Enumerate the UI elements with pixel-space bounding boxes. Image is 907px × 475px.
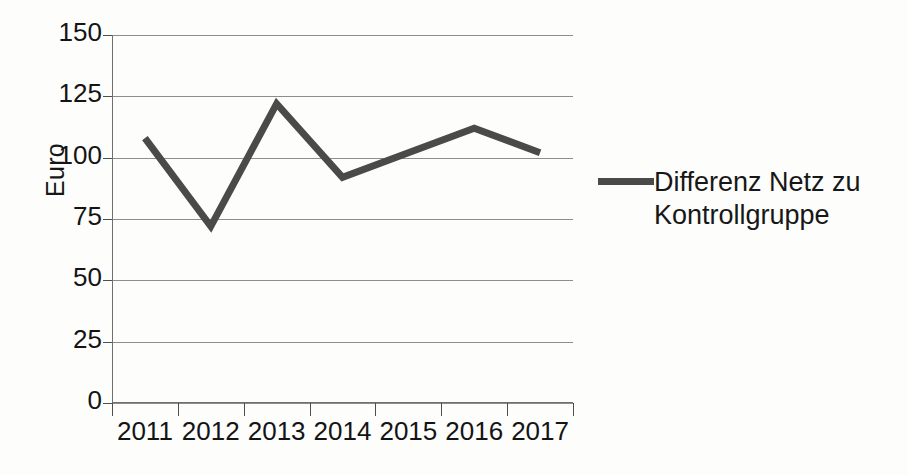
y-tick-label: 150	[30, 19, 102, 45]
chart-legend: Differenz Netz zu Kontrollgruppe	[598, 166, 898, 232]
plot-area	[112, 35, 573, 403]
y-tick-mark	[103, 158, 112, 159]
series-polyline	[145, 104, 540, 227]
series-line-differenz-netz-zu-kontrollgruppe	[112, 35, 573, 403]
y-tick-label: 0	[30, 387, 102, 413]
y-tick-label: 25	[30, 326, 102, 352]
y-tick-label: 75	[30, 203, 102, 229]
y-tick-label: 50	[30, 264, 102, 290]
x-axis-tick-labels: 2011201220132014201520162017	[112, 418, 573, 458]
y-tick-label: 100	[30, 142, 102, 168]
x-tick-mark	[441, 403, 442, 416]
y-tick-mark	[103, 342, 112, 343]
y-tick-mark	[103, 280, 112, 281]
y-tick-mark	[103, 219, 112, 220]
x-tick-mark	[310, 403, 311, 416]
legend-swatch-line	[598, 178, 654, 185]
gridline	[112, 403, 573, 404]
y-tick-mark	[103, 96, 112, 97]
legend-label: Differenz Netz zu Kontrollgruppe	[654, 166, 894, 232]
y-tick-mark	[103, 403, 112, 404]
line-chart: Euro 0255075100125150 201120122013201420…	[0, 0, 907, 475]
x-tick-label: 2017	[500, 418, 580, 444]
y-tick-label: 125	[30, 80, 102, 106]
y-tick-mark	[103, 35, 112, 36]
x-tick-mark	[507, 403, 508, 416]
x-tick-mark	[375, 403, 376, 416]
x-tick-mark	[244, 403, 245, 416]
y-axis-tick-labels: 0255075100125150	[30, 0, 102, 475]
x-tick-mark	[112, 403, 113, 416]
x-tick-mark	[178, 403, 179, 416]
x-tick-mark	[573, 403, 574, 416]
